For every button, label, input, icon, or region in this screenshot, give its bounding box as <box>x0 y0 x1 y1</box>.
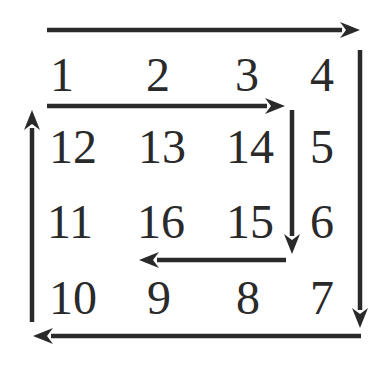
matrix-cell: 1 <box>50 51 74 99</box>
matrix-cell: 13 <box>138 123 186 171</box>
outer-top-right-arrow-icon <box>47 22 360 38</box>
inner-bottom-left-arrow-icon <box>139 252 286 268</box>
matrix-cell: 10 <box>49 274 97 322</box>
matrix-cell: 2 <box>146 51 170 99</box>
matrix-cell: 6 <box>310 198 334 246</box>
matrix-cell: 5 <box>310 123 334 171</box>
matrix-cell: 12 <box>49 123 97 171</box>
matrix-cell: 7 <box>310 274 334 322</box>
matrix-cell: 14 <box>226 123 274 171</box>
outer-left-up-arrow-icon <box>24 110 40 322</box>
matrix-cell: 15 <box>226 198 274 246</box>
matrix-cell: 16 <box>137 198 185 246</box>
outer-bottom-left-arrow-icon <box>33 328 361 344</box>
matrix-cell: 8 <box>236 274 260 322</box>
inner-right-down-arrow-icon <box>284 110 300 254</box>
outer-right-down-arrow-icon <box>352 50 368 328</box>
matrix-cell: 3 <box>235 51 259 99</box>
matrix-cell: 9 <box>147 274 171 322</box>
matrix-cell: 4 <box>310 51 334 99</box>
matrix-cell: 11 <box>47 198 93 246</box>
